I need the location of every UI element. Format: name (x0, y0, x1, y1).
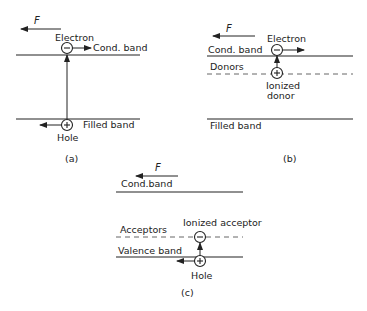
panel-b: F Electron Cond. band Donors Ionized don… (207, 23, 353, 164)
caption-b: (b) (283, 153, 296, 164)
force-label: F (34, 15, 40, 26)
filled-band-label: Filled band (210, 120, 262, 131)
force-label: F (226, 23, 232, 34)
hole-symbol (62, 120, 73, 131)
electron-label: Electron (267, 33, 306, 44)
caption-c: (c) (181, 287, 194, 298)
caption-a: (a) (65, 153, 78, 164)
ionized-label-line2: donor (267, 90, 295, 101)
ionized-donor-symbol (272, 68, 283, 79)
electron-symbol (272, 45, 283, 56)
force-arrow-a: F (21, 15, 61, 29)
electron-label: Electron (55, 32, 94, 43)
hole-label: Hole (57, 132, 79, 143)
cond-band-label: Cond. band (93, 42, 147, 53)
force-arrow-c: F (136, 162, 178, 176)
ionized-acceptor-symbol (195, 232, 206, 243)
hole-label: Hole (191, 270, 213, 281)
force-label: F (155, 162, 161, 173)
cond-band-label: Cond.band (121, 178, 172, 189)
panel-c: F Cond.band Ionized acceptor Acceptors V… (116, 162, 262, 298)
ionized-acceptor-label: Ionized acceptor (183, 217, 262, 228)
cond-band-label: Cond. band (208, 44, 262, 55)
acceptors-label: Acceptors (120, 224, 167, 235)
hole-symbol (195, 256, 206, 267)
filled-band-label: Filled band (83, 119, 135, 130)
panel-a: F Electron Cond. band Filled band Hole (… (16, 15, 147, 164)
electron-symbol (62, 43, 73, 54)
band-diagram: F Electron Cond. band Filled band Hole (… (0, 0, 367, 311)
valence-band-label: Valence band (118, 245, 182, 256)
force-arrow-b: F (213, 23, 255, 36)
donors-label: Donors (210, 61, 244, 72)
